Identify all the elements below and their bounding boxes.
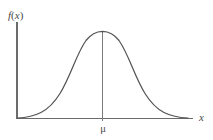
bell-curve-figure: f(x) x μ: [0, 0, 213, 140]
y-axis-label-close-paren: ): [20, 9, 24, 22]
y-axis-label: f(x): [8, 9, 24, 22]
mean-label: μ: [100, 123, 106, 134]
distribution-plot-svg: f(x) x μ: [0, 0, 213, 140]
x-axis-label: x: [198, 111, 204, 123]
